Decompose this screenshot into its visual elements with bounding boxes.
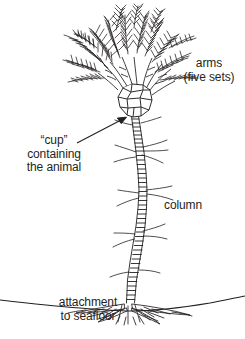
label-attachment: attachment to seafloor — [32, 296, 144, 323]
label-cup-line2: containing — [6, 148, 102, 162]
label-column: column — [164, 199, 202, 213]
label-attachment-line1: attachment — [32, 296, 144, 310]
label-cup: “cup” containing the animal — [6, 134, 102, 175]
label-column-line1: column — [164, 199, 202, 213]
cirri-group — [110, 117, 173, 277]
label-arms-line1: arms — [176, 57, 242, 71]
label-attachment-line2: to seafloor — [32, 310, 144, 324]
column-group — [127, 116, 148, 303]
calyx-cup-group — [118, 84, 152, 117]
label-arms-line2: (five sets) — [176, 71, 242, 85]
crinoid-diagram: arms (five sets) “cup” containing the an… — [0, 0, 245, 339]
label-cup-line3: the animal — [6, 161, 102, 175]
label-arms: arms (five sets) — [176, 57, 242, 84]
label-cup-line1: “cup” — [6, 134, 102, 148]
